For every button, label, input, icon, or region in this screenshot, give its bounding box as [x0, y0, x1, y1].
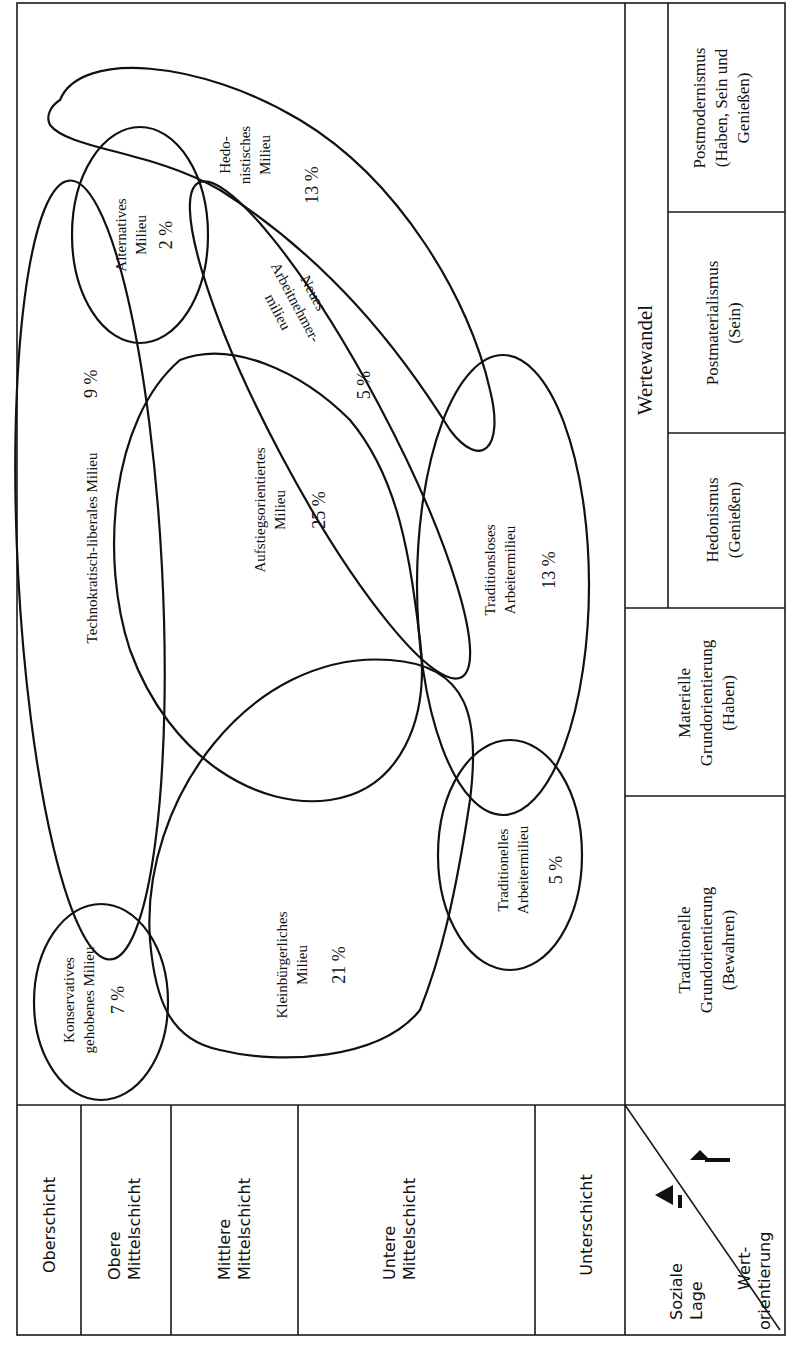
milieu-label-neues-arbeitnehmermilieu: Neues Arbeitnehmer- milieu	[250, 250, 341, 354]
svg-text:(Bewahren): (Bewahren)	[719, 910, 738, 990]
shape-aufstiegsorientiertes-milieu	[114, 354, 422, 802]
svg-text:Technokratisch-liberales Milie: Technokratisch-liberales Milieu	[84, 452, 100, 643]
svg-text:Oberschicht: Oberschicht	[40, 1177, 59, 1273]
svg-text:Milieu: Milieu	[133, 215, 149, 255]
svg-text:Milieu: Milieu	[272, 490, 288, 530]
svg-text:Mittelschicht: Mittelschicht	[125, 1178, 144, 1280]
value-postmodernismus: Postmodernismus (Haben, Sein und Genieße…	[690, 48, 753, 169]
social-class-mittlere-mittelschicht: Mittlere Mittelschicht	[215, 1178, 254, 1280]
svg-text:(Genießen): (Genießen)	[725, 482, 744, 558]
svg-text:Konservatives: Konservatives	[61, 957, 77, 1043]
arrow-up-icon	[655, 1185, 680, 1208]
svg-text:Materielle: Materielle	[675, 668, 694, 738]
svg-text:Milieu: Milieu	[294, 945, 310, 985]
svg-text:Unterschicht: Unterschicht	[577, 1174, 596, 1275]
milieu-label-kleinbuergerliches: Kleinbürgerliches Milieu 21 %	[274, 911, 349, 1018]
value-group-wertewandel: Wertewandel	[633, 305, 657, 415]
svg-text:nistisches: nistisches	[237, 126, 253, 184]
svg-text:Mittelschicht: Mittelschicht	[235, 1178, 254, 1280]
milieu-label-aufstiegsorientiertes: Aufstiegsorientiertes Milieu 25 %	[252, 447, 329, 572]
svg-text:gehobenes Milieu: gehobenes Milieu	[81, 946, 97, 1054]
svg-text:Traditionsloses: Traditionsloses	[482, 524, 498, 615]
svg-text:21 %: 21 %	[329, 946, 349, 984]
svg-text:Lage: Lage	[687, 1281, 706, 1320]
milieu-label-alternatives: Alternatives Milieu 2 %	[113, 198, 176, 271]
milieu-diagram: Konservatives gehobenes Milieu 7 % Klein…	[0, 0, 795, 1364]
svg-text:Postmaterialismus: Postmaterialismus	[703, 261, 722, 386]
milieu-label-hedonistisches: Hedo- nistisches Milieu	[217, 126, 273, 184]
svg-text:Arbeitermilieu: Arbeitermilieu	[515, 825, 531, 914]
milieu-label-traditionelles-arbeitermilieu: Traditionelles Arbeitermilieu 5 %	[495, 825, 566, 914]
shape-konservatives-milieu	[34, 904, 168, 1100]
svg-text:Mittlere: Mittlere	[215, 1219, 234, 1280]
svg-text:Wert-: Wert-	[735, 1247, 754, 1290]
milieu-label-technokratisch: Technokratisch-liberales Milieu 9 %	[81, 370, 101, 644]
svg-text:25 %: 25 %	[309, 491, 329, 529]
svg-text:Hedonismus: Hedonismus	[703, 478, 722, 563]
svg-text:Milieu: Milieu	[257, 135, 273, 175]
svg-text:orientierung: orientierung	[755, 1232, 774, 1330]
svg-text:Soziale: Soziale	[667, 1263, 686, 1320]
svg-text:Obere: Obere	[105, 1231, 124, 1280]
value-materielle-grundorientierung: Materielle Grundorientierung (Haben)	[675, 639, 738, 766]
svg-text:Traditionelles: Traditionelles	[495, 828, 511, 911]
svg-text:(Haben): (Haben)	[719, 675, 738, 731]
svg-text:13 %: 13 %	[302, 166, 322, 204]
svg-text:Mittelschicht: Mittelschicht	[400, 1178, 419, 1280]
svg-text:5 %: 5 %	[354, 371, 374, 400]
svg-text:13 %: 13 %	[539, 551, 559, 589]
svg-text:Postmodernismus: Postmodernismus	[690, 48, 709, 169]
svg-text:7 %: 7 %	[108, 986, 128, 1015]
svg-text:2 %: 2 %	[156, 221, 176, 250]
svg-text:Wertewandel: Wertewandel	[633, 305, 657, 415]
arrow-right-icon	[690, 1150, 730, 1160]
corner-label-wertorientierung: Wert- orientierung	[735, 1232, 774, 1330]
svg-text:Arbeitermilieu: Arbeitermilieu	[502, 525, 518, 614]
shape-neues-arbeitnehmermilieu	[150, 157, 510, 703]
milieu-share-neues-arbeitnehmermilieu: 5 %	[354, 371, 374, 400]
social-class-untere-mittelschicht: Untere Mittelschicht	[380, 1178, 419, 1280]
milieu-share-hedonistisches: 13 %	[302, 166, 322, 204]
social-class-obere-mittelschicht: Obere Mittelschicht	[105, 1178, 144, 1280]
svg-text:9 %: 9 %	[81, 370, 101, 399]
svg-text:Alternatives: Alternatives	[113, 198, 129, 271]
milieu-label-konservatives: Konservatives gehobenes Milieu 7 %	[61, 946, 128, 1054]
value-postmaterialismus: Postmaterialismus (Sein)	[703, 261, 744, 386]
social-class-oberschicht: Oberschicht	[40, 1177, 59, 1273]
svg-text:Genießen): Genießen)	[734, 73, 753, 144]
value-traditionelle-grundorientierung: Traditionelle Grundorientierung (Bewahre…	[675, 886, 738, 1013]
svg-text:5 %: 5 %	[546, 856, 566, 885]
svg-text:(Haben, Sein und: (Haben, Sein und	[712, 48, 731, 167]
corner-label-soziale-lage: Soziale Lage	[667, 1263, 706, 1320]
svg-text:Kleinbürgerliches: Kleinbürgerliches	[274, 911, 290, 1018]
svg-text:Hedo-: Hedo-	[217, 136, 233, 174]
svg-text:Grundorientierung: Grundorientierung	[697, 886, 716, 1013]
value-hedonismus: Hedonismus (Genießen)	[703, 478, 744, 563]
svg-text:Grundorientierung: Grundorientierung	[697, 639, 716, 766]
svg-text:Aufstiegsorientiertes: Aufstiegsorientiertes	[252, 447, 268, 572]
svg-text:Traditionelle: Traditionelle	[675, 906, 694, 993]
milieu-label-traditionsloses: Traditionsloses Arbeitermilieu 13 %	[482, 524, 559, 615]
svg-text:Untere: Untere	[380, 1226, 399, 1280]
shape-kleinbuergerliches-milieu	[149, 660, 473, 1058]
diagram-frame	[17, 3, 785, 1335]
social-class-unterschicht: Unterschicht	[577, 1174, 596, 1275]
svg-text:(Sein): (Sein)	[725, 302, 744, 344]
